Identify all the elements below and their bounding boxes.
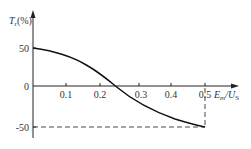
y-tick-label: 50: [19, 43, 29, 54]
x-tick-label: 0.1: [60, 89, 73, 100]
chart-svg: 50 0 -50 0.1 0.2 0.3 0.4 0.5 Tr(%) E: [0, 0, 251, 149]
y-axis-label: Tr(%): [9, 15, 32, 28]
data-curve: [33, 48, 205, 127]
y-tick-label: -50: [16, 122, 29, 133]
x-tick-label: 0.3: [135, 89, 148, 100]
x-tick-label: 0.2: [94, 89, 107, 100]
y-tick-label: 0: [24, 81, 29, 92]
x-axis-label: Em/US: [213, 89, 239, 102]
x-axis-arrow-icon: [231, 84, 239, 89]
x-tick-label: 0.4: [165, 89, 178, 100]
chart: 50 0 -50 0.1 0.2 0.3 0.4 0.5 Tr(%) E: [0, 0, 251, 149]
